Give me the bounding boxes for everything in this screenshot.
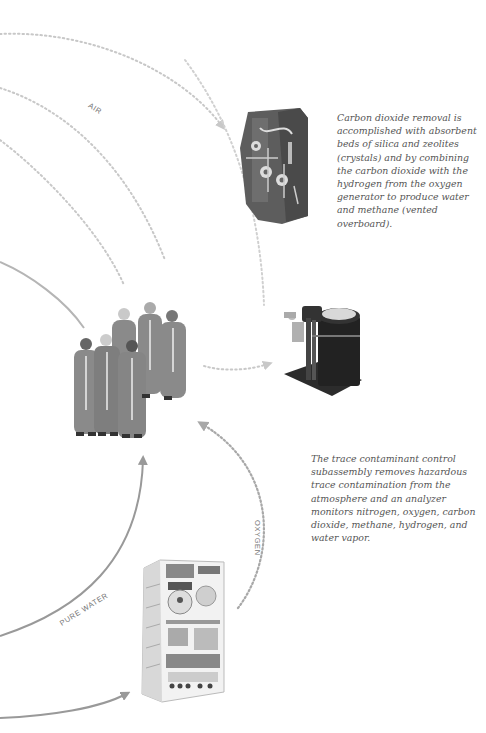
- water-to-rack-arrow: [0, 694, 126, 718]
- oxygen-label: OXYGEN: [253, 520, 262, 556]
- trace-contaminant-caption: The trace contaminant control subassembl…: [311, 452, 481, 544]
- trace-contaminant-unit-icon: [278, 296, 368, 396]
- air-flow-to-crew-arrow: [0, 88, 165, 285]
- co2-removal-caption: Carbon dioxide removal is accomplished w…: [337, 111, 485, 230]
- crew-image: [72, 300, 190, 440]
- co2-removal-assembly-image: [238, 108, 310, 224]
- oxygen-generator-rack-icon: [140, 558, 226, 704]
- pure-water-flow-arrow: [0, 460, 143, 636]
- astronaut-crew-icon: [72, 300, 190, 440]
- oxygen-generator-rack-image: [140, 558, 226, 704]
- crew-to-trace-flow-arrow: [204, 364, 268, 370]
- trace-contaminant-unit-image: [278, 296, 368, 396]
- air-flow-to-co2-arrow: [0, 34, 222, 126]
- co2-removal-assembly-icon: [238, 108, 310, 224]
